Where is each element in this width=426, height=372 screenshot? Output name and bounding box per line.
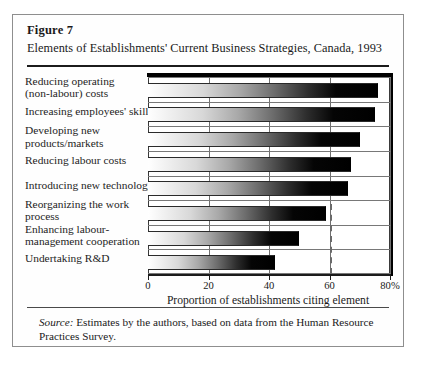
category-label-line: Enhancing labour- <box>25 223 157 235</box>
bar <box>148 132 360 147</box>
category-label-line: Reducing operating <box>25 75 157 87</box>
bar <box>148 255 275 270</box>
category-label-line: management cooperation <box>25 235 157 247</box>
row-separator <box>148 249 391 250</box>
source-note: Source: Estimates by the authors, based … <box>39 315 389 343</box>
row-separator <box>148 151 391 152</box>
bar <box>148 107 375 122</box>
figure-number: Figure 7 <box>27 23 73 38</box>
row-separator <box>148 273 391 274</box>
category-label-line: Reducing labour costs <box>25 154 157 166</box>
title-divider <box>27 65 389 67</box>
source-label: Source: <box>39 316 73 328</box>
bar <box>148 206 326 221</box>
figure-title: Elements of Establishments' Current Busi… <box>27 41 393 56</box>
row-separator <box>148 176 391 177</box>
row-separator <box>148 102 391 103</box>
category-label: Increasing employees' skills <box>25 105 157 117</box>
bar <box>148 231 299 246</box>
figure-frame: Figure 7 Elements of Establishments' Cur… <box>12 14 404 347</box>
category-label-line: Increasing employees' skills <box>25 105 157 117</box>
reference-line-60 <box>330 204 332 274</box>
row-separator <box>148 200 391 201</box>
category-label: Undertaking R&D <box>25 252 157 264</box>
category-label-line: products/markets <box>25 137 157 149</box>
x-axis-title: Proportion of establishments citing elem… <box>133 294 403 307</box>
category-label: Reorganizing the workprocess <box>25 198 157 223</box>
x-tick-label: 0 <box>128 280 168 291</box>
category-label-line: Undertaking R&D <box>25 252 157 264</box>
category-label: Reducing labour costs <box>25 154 157 166</box>
bar-chart: Reducing operating(non-labour) costsIncr… <box>13 73 405 303</box>
row-separator <box>148 225 391 226</box>
category-label-line: (non-labour) costs <box>25 87 157 99</box>
bar <box>148 83 378 98</box>
x-tick-label: 80% <box>370 280 410 291</box>
bar <box>148 181 348 196</box>
category-label-line: Developing new <box>25 124 157 136</box>
source-divider <box>27 307 389 308</box>
category-label: Reducing operating(non-labour) costs <box>25 75 157 100</box>
category-label-line: Introducing new technology <box>25 179 157 191</box>
row-separator <box>148 126 391 127</box>
category-label-line: process <box>25 210 157 222</box>
category-label-line: Reorganizing the work <box>25 198 157 210</box>
bar <box>148 157 351 172</box>
category-label-column: Reducing operating(non-labour) costsIncr… <box>25 75 157 271</box>
source-text: Estimates by the authors, based on data … <box>39 316 374 342</box>
x-tick-label: 60 <box>310 280 350 291</box>
row-separator <box>148 77 391 78</box>
category-label: Developing newproducts/markets <box>25 124 157 149</box>
x-tick-label: 40 <box>249 280 289 291</box>
category-label: Enhancing labour-management cooperation <box>25 223 157 248</box>
category-label: Introducing new technology <box>25 179 157 191</box>
x-tick-label: 20 <box>189 280 229 291</box>
